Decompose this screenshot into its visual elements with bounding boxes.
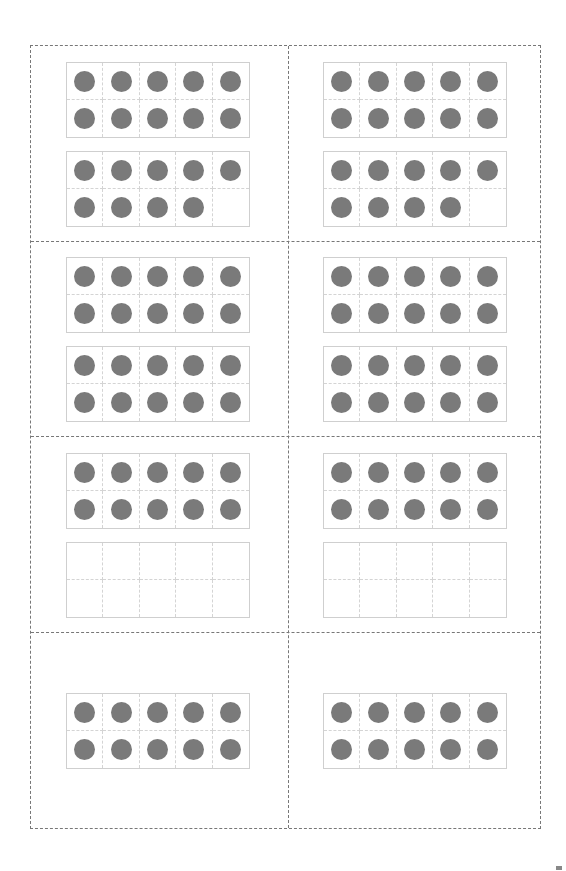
counter-dot-icon <box>220 266 241 287</box>
ten-frame-cell <box>213 384 249 421</box>
counter-dot-icon <box>331 702 352 723</box>
ten-frame-cell <box>176 258 212 295</box>
counter-dot-icon <box>404 499 425 520</box>
ten-frame-cell <box>176 63 212 100</box>
horizontal-cut-line <box>31 632 540 633</box>
counter-dot-icon <box>368 392 389 413</box>
ten-frame-cell <box>67 100 103 137</box>
ten-frame-cell <box>103 189 139 226</box>
ten-frame-cell <box>176 384 212 421</box>
counter-dot-icon <box>440 303 461 324</box>
ten-frame <box>66 542 250 618</box>
ten-frame-cell <box>433 258 469 295</box>
ten-frame-cell <box>324 491 360 528</box>
ten-frame-cell <box>176 731 212 768</box>
ten-frame-cell <box>176 694 212 731</box>
counter-dot-icon <box>404 266 425 287</box>
ten-frame <box>66 346 250 422</box>
ten-frame-cell <box>470 295 506 332</box>
counter-dot-icon <box>111 266 132 287</box>
counter-dot-icon <box>404 108 425 129</box>
counter-dot-icon <box>220 392 241 413</box>
ten-frame-cell <box>397 189 433 226</box>
counter-dot-icon <box>220 71 241 92</box>
counter-dot-icon <box>147 108 168 129</box>
ten-frame-cell <box>213 454 249 491</box>
ten-frame-cell <box>103 152 139 189</box>
ten-frame-cell <box>67 543 103 580</box>
counter-dot-icon <box>111 702 132 723</box>
ten-frame-cell <box>433 694 469 731</box>
counter-dot-icon <box>147 266 168 287</box>
ten-frame-cell <box>103 100 139 137</box>
counter-dot-icon <box>477 355 498 376</box>
ten-frame-cell <box>103 384 139 421</box>
ten-frame-cell <box>324 295 360 332</box>
counter-dot-icon <box>74 303 95 324</box>
counter-dot-icon <box>368 462 389 483</box>
ten-frame-cell <box>176 543 212 580</box>
counter-dot-icon <box>183 266 204 287</box>
ten-frame-cell <box>103 580 139 617</box>
counter-dot-icon <box>183 71 204 92</box>
counter-dot-icon <box>331 739 352 760</box>
ten-frame-cell <box>103 258 139 295</box>
ten-frame-cell <box>397 491 433 528</box>
counter-dot-icon <box>220 739 241 760</box>
ten-frame-cell <box>433 580 469 617</box>
ten-frame-cell <box>397 454 433 491</box>
ten-frame-cell <box>103 295 139 332</box>
counter-dot-icon <box>220 355 241 376</box>
ten-frame-cell <box>397 694 433 731</box>
counter-dot-icon <box>404 739 425 760</box>
counter-dot-icon <box>368 303 389 324</box>
counter-dot-icon <box>440 71 461 92</box>
counter-dot-icon <box>220 108 241 129</box>
ten-frame-cell <box>397 384 433 421</box>
counter-dot-icon <box>368 739 389 760</box>
ten-frame-cell <box>213 491 249 528</box>
ten-frame-cell <box>103 543 139 580</box>
ten-frame-cell <box>470 454 506 491</box>
ten-frame-cell <box>433 295 469 332</box>
ten-frame-cell <box>176 347 212 384</box>
counter-dot-icon <box>111 392 132 413</box>
ten-frame-cell <box>397 100 433 137</box>
counter-dot-icon <box>183 355 204 376</box>
ten-frame <box>66 257 250 333</box>
ten-frame-cell <box>67 694 103 731</box>
counter-dot-icon <box>183 462 204 483</box>
counter-dot-icon <box>440 355 461 376</box>
ten-frame <box>66 453 250 529</box>
counter-dot-icon <box>147 303 168 324</box>
counter-dot-icon <box>404 462 425 483</box>
ten-frame-cell <box>67 384 103 421</box>
ten-frame-cell <box>67 295 103 332</box>
ten-frame <box>323 693 507 769</box>
counter-dot-icon <box>183 499 204 520</box>
ten-frame <box>66 693 250 769</box>
counter-dot-icon <box>220 303 241 324</box>
counter-dot-icon <box>147 462 168 483</box>
ten-frame-cell <box>213 100 249 137</box>
counter-dot-icon <box>331 462 352 483</box>
ten-frame-cell <box>140 295 176 332</box>
ten-frame-cell <box>397 152 433 189</box>
ten-frame-cell <box>324 152 360 189</box>
counter-dot-icon <box>477 702 498 723</box>
ten-frame-cell <box>324 100 360 137</box>
ten-frame-cell <box>360 189 396 226</box>
ten-frame <box>66 151 250 227</box>
counter-dot-icon <box>74 739 95 760</box>
counter-dot-icon <box>404 355 425 376</box>
counter-dot-icon <box>404 197 425 218</box>
counter-dot-icon <box>147 702 168 723</box>
ten-frame-cell <box>324 189 360 226</box>
ten-frame-cell <box>140 189 176 226</box>
ten-frame-cell <box>470 491 506 528</box>
ten-frame-cell <box>360 694 396 731</box>
counter-dot-icon <box>477 160 498 181</box>
ten-frame-cell <box>103 694 139 731</box>
ten-frame-cell <box>140 258 176 295</box>
ten-frame-cell <box>213 295 249 332</box>
